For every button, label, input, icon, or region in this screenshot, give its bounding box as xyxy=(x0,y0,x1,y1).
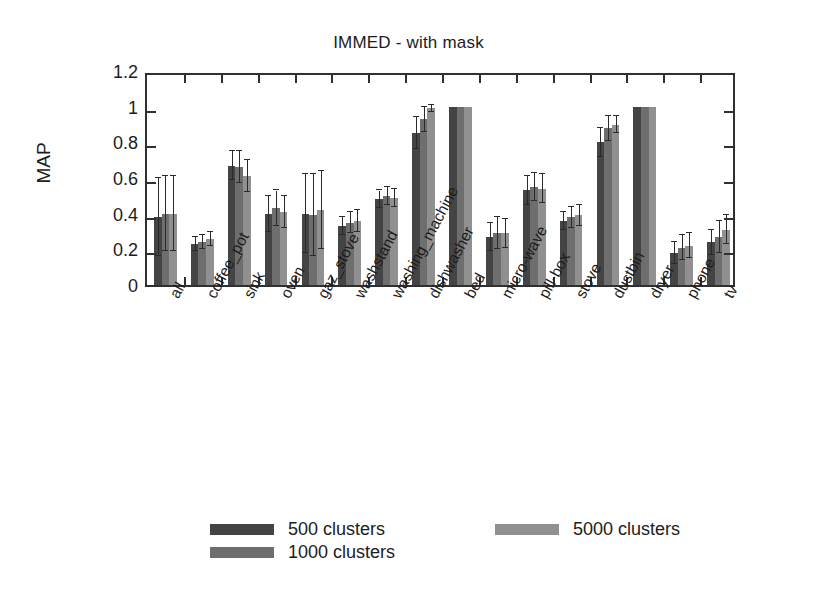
x-axis-tick xyxy=(368,75,370,83)
chart-legend: 500 clusters1000 clusters5000 clusters xyxy=(210,520,680,568)
error-bar-cap xyxy=(560,211,566,212)
x-axis-tick xyxy=(590,75,592,83)
error-bar-cap xyxy=(671,263,677,264)
y-axis-tick xyxy=(724,182,733,184)
error-bar-cap xyxy=(613,115,619,116)
error-bar xyxy=(542,174,543,203)
error-bar xyxy=(682,235,683,260)
error-bar xyxy=(276,191,277,227)
error-bar xyxy=(387,187,388,205)
bar-group xyxy=(265,75,288,285)
error-bar-cap xyxy=(605,140,611,141)
y-axis-tick xyxy=(724,111,733,113)
error-bar-cap xyxy=(339,216,345,217)
error-bar xyxy=(497,217,498,249)
error-bar-cap xyxy=(539,173,545,174)
error-bar xyxy=(321,171,322,249)
error-bar-cap xyxy=(236,150,242,151)
error-bar-cap xyxy=(686,232,692,233)
error-bar-cap xyxy=(170,175,176,176)
error-bar-cap xyxy=(723,243,729,244)
bar xyxy=(604,128,612,285)
error-bar xyxy=(195,237,196,251)
error-bar xyxy=(357,210,358,231)
error-bar xyxy=(379,191,380,209)
x-axis-tick xyxy=(516,75,518,83)
error-bar-cap xyxy=(524,175,530,176)
error-bar-cap xyxy=(310,173,316,174)
error-bar xyxy=(505,219,506,248)
error-bar-cap xyxy=(708,229,714,230)
error-bar xyxy=(394,189,395,207)
legend-swatch xyxy=(495,524,559,535)
error-bar-cap xyxy=(716,252,722,253)
error-bar-cap xyxy=(354,231,360,232)
y-axis-tick-labels: 00.20.40.60.811.2 xyxy=(62,0,138,596)
error-bar-cap xyxy=(281,227,287,228)
error-bar-cap xyxy=(244,159,250,160)
y-axis-tick xyxy=(724,218,733,220)
error-bar xyxy=(674,242,675,263)
error-bar-cap xyxy=(576,204,582,205)
error-bar-cap xyxy=(605,115,611,116)
y-tick-label: 0.8 xyxy=(92,134,138,152)
error-bar-cap xyxy=(265,231,271,232)
error-bar-cap xyxy=(428,104,434,105)
x-axis-tick xyxy=(442,75,444,83)
error-bar-cap xyxy=(354,209,360,210)
error-bar xyxy=(616,116,617,134)
error-bar xyxy=(424,107,425,132)
y-axis-tick xyxy=(147,218,156,220)
y-axis-tick xyxy=(147,253,156,255)
error-bar-cap xyxy=(302,173,308,174)
error-bar-cap xyxy=(162,175,168,176)
error-bar xyxy=(719,221,720,253)
error-bar-cap xyxy=(502,218,508,219)
error-bar-cap xyxy=(207,245,213,246)
legend-label: 1000 clusters xyxy=(288,542,395,563)
error-bar-cap xyxy=(199,234,205,235)
error-bar xyxy=(490,223,491,252)
error-bar-cap xyxy=(302,252,308,253)
error-bar-cap xyxy=(192,236,198,237)
bar-group xyxy=(670,75,693,285)
bar-group xyxy=(302,75,325,285)
error-bar-cap xyxy=(273,189,279,190)
error-bar-cap xyxy=(310,255,316,256)
error-bar xyxy=(165,176,166,251)
x-axis-tick xyxy=(184,75,186,83)
error-bar-cap xyxy=(273,225,279,226)
error-bar-cap xyxy=(679,259,685,260)
x-axis-tick xyxy=(700,75,702,83)
error-bar-cap xyxy=(597,156,603,157)
error-bar-cap xyxy=(524,204,530,205)
error-bar xyxy=(342,217,343,235)
x-axis-tick xyxy=(553,75,555,83)
x-axis-tick xyxy=(405,75,407,83)
error-bar xyxy=(527,176,528,205)
error-bar xyxy=(158,178,159,256)
error-bar-cap xyxy=(708,254,714,255)
error-bar-cap xyxy=(155,255,161,256)
x-axis-tick-labels: allcoffee_potsinkovengaz_stovewashstandw… xyxy=(145,289,735,489)
error-bar-cap xyxy=(413,148,419,149)
error-bar-cap xyxy=(281,195,287,196)
error-bar xyxy=(726,215,727,244)
error-bar xyxy=(571,207,572,228)
x-tick-label: tv xyxy=(720,282,742,301)
error-bar-cap xyxy=(421,106,427,107)
error-bar-cap xyxy=(229,150,235,151)
error-bar-cap xyxy=(391,188,397,189)
error-bar xyxy=(210,232,211,246)
error-bar-cap xyxy=(170,250,176,251)
y-tick-label: 0 xyxy=(92,277,138,295)
error-bar xyxy=(305,174,306,252)
error-bar-cap xyxy=(391,206,397,207)
y-tick-label: 0.2 xyxy=(92,241,138,259)
y-axis-tick xyxy=(147,111,156,113)
bar xyxy=(427,108,435,285)
error-bar-cap xyxy=(413,116,419,117)
y-tick-label: 0.4 xyxy=(92,206,138,224)
legend-label: 500 clusters xyxy=(288,519,385,540)
error-bar xyxy=(173,176,174,251)
